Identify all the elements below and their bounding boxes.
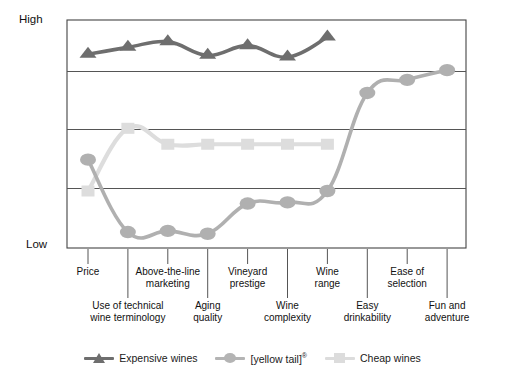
legend-item[interactable]: Expensive wines (84, 352, 197, 364)
legend-item[interactable]: [yellow tail]® (215, 352, 307, 365)
category-label-use-of-technical-wine-terminology: Use of technicalwine terminology (90, 300, 165, 323)
legend-label: Cheap wines (360, 352, 421, 364)
data-point-marker (121, 123, 134, 134)
y-axis-high-label: High (19, 13, 43, 25)
chart-legend: Expensive wines[yellow tail]®Cheap wines (0, 352, 505, 365)
category-label-easy-drinkability: Easydrinkability (344, 300, 391, 323)
category-label-wine-complexity: Winecomplexity (264, 300, 311, 323)
category-label-above-the-line-marketing: Above-the-linemarketing (136, 266, 200, 289)
data-point-marker (439, 64, 455, 76)
data-point-marker (120, 226, 136, 238)
category-label-fun-and-adventure: Fun andadventure (425, 300, 469, 323)
plot-frame (67, 20, 466, 248)
data-point-marker (399, 74, 415, 86)
data-point-marker (160, 225, 176, 237)
data-point-marker (321, 139, 334, 150)
data-point-marker (280, 196, 296, 208)
circle-marker (215, 352, 245, 364)
data-point-marker (241, 139, 254, 150)
square-marker (325, 352, 355, 364)
triangle-marker (84, 352, 114, 364)
data-point-marker (201, 139, 214, 150)
data-point-marker (240, 197, 256, 209)
data-point-marker (319, 185, 335, 197)
strategy-canvas-chart (0, 0, 505, 392)
legend-label: [yellow tail]® (250, 352, 307, 365)
data-point-marker (281, 139, 294, 150)
data-point-marker (80, 153, 96, 165)
data-point-marker (200, 228, 216, 240)
legend-label: Expensive wines (119, 352, 197, 364)
data-point-marker (161, 139, 174, 150)
category-label-price: Price (77, 266, 100, 278)
category-label-aging-quality: Agingquality (193, 300, 222, 323)
y-axis-low-label: Low (26, 238, 47, 250)
category-label-wine-range: Winerange (315, 266, 341, 289)
category-label-vineyard-prestige: Vineyardprestige (228, 266, 267, 289)
category-label-ease-of-selection: Ease ofselection (387, 266, 426, 289)
data-point-marker (82, 186, 95, 197)
legend-item[interactable]: Cheap wines (325, 352, 421, 364)
data-point-marker (359, 87, 375, 99)
